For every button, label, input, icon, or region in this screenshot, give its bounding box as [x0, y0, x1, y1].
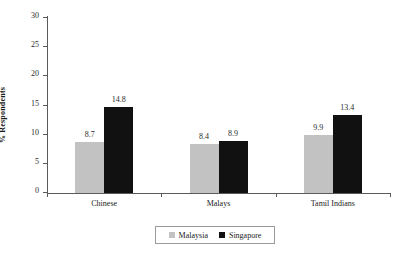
x-axis-separator	[276, 193, 277, 197]
x-axis-category-label: Malays	[161, 199, 275, 209]
x-axis-category-label: Tamil Indians	[276, 199, 390, 209]
y-axis-title: % Respondents	[0, 60, 7, 170]
x-axis-line	[47, 193, 391, 194]
bar-chart: % Respondents 051015202530 8.714.88.48.9…	[0, 0, 401, 261]
y-axis-tick-label: 30	[31, 11, 39, 20]
legend-swatch-icon	[219, 232, 225, 238]
legend-entry-malaysia[interactable]: Malaysia	[169, 231, 208, 240]
bar-singapore-malays	[219, 141, 248, 193]
bar-singapore-tamil-indians	[333, 115, 362, 193]
bar-malaysia-tamil-indians	[304, 135, 333, 193]
y-axis-tick-label: 25	[31, 40, 39, 49]
bar-value-label: 13.4	[327, 103, 368, 112]
x-axis-end-tick	[390, 193, 391, 197]
bar-malaysia-chinese	[75, 142, 104, 193]
y-axis-tick-label: 10	[31, 128, 39, 137]
y-axis-tick-label: 15	[31, 99, 39, 108]
bar-singapore-chinese	[104, 107, 133, 193]
x-axis-separator	[161, 193, 162, 197]
legend-label: Malaysia	[179, 231, 208, 240]
legend: MalaysiaSingapore	[155, 226, 275, 244]
legend-entry-singapore[interactable]: Singapore	[219, 231, 261, 240]
y-axis-tick-label: 20	[31, 69, 39, 78]
legend-swatch-icon	[169, 232, 175, 238]
plot-area: 8.714.88.48.99.913.4	[47, 18, 390, 193]
y-axis-tick-label: 0	[35, 186, 39, 195]
legend-label: Singapore	[229, 231, 261, 240]
bar-value-label: 8.9	[213, 129, 254, 138]
y-axis-tick-label: 5	[35, 157, 39, 166]
bar-value-label: 14.8	[98, 95, 139, 104]
bar-malaysia-malays	[190, 144, 219, 193]
x-axis-category-label: Chinese	[47, 199, 161, 209]
x-axis-end-tick	[47, 193, 48, 197]
